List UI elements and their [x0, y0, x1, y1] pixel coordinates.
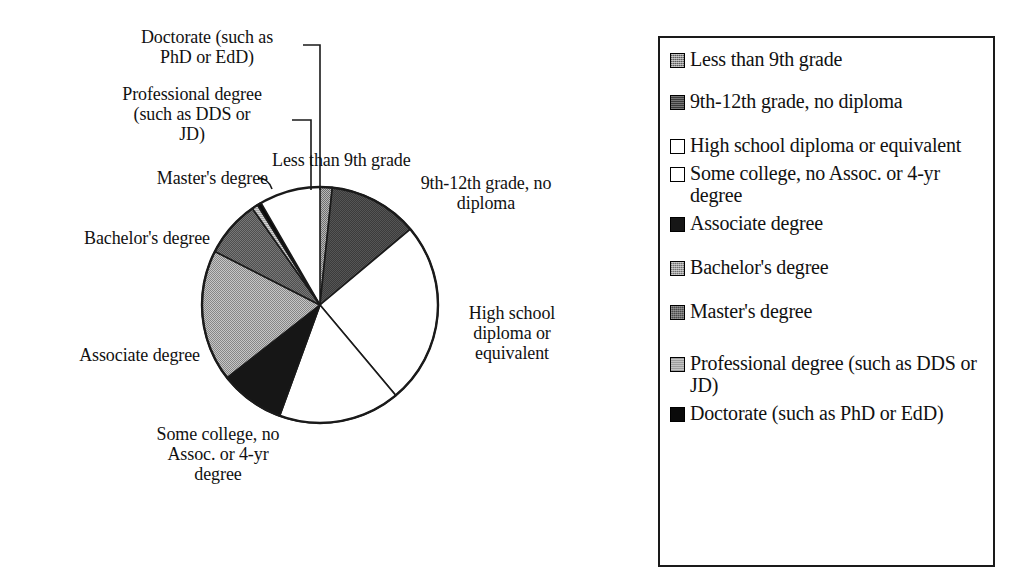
legend-label: High school diploma or equivalent: [690, 134, 961, 156]
legend-swatch-some-college: [670, 167, 685, 182]
callout-some-college: Some college, no Assoc. or 4-yr degree: [118, 424, 318, 484]
legend-item[interactable]: Professional degree (such as DDS or JD): [670, 352, 985, 396]
legend-swatch-high-school-diploma: [670, 139, 685, 154]
callout-masters-degree: Master's degree: [78, 168, 268, 188]
legend-swatch-less-than-9th-grade: [670, 53, 685, 68]
legend-swatch-professional-degree: [670, 357, 685, 372]
callout-associate-degree: Associate degree: [10, 345, 200, 365]
legend-swatch-associate-degree: [670, 217, 685, 232]
chart-page: Doctorate (such as PhD or EdD) Professio…: [0, 0, 1012, 586]
legend-item[interactable]: Bachelor's degree: [670, 256, 985, 278]
legend-item[interactable]: High school diploma or equivalent: [670, 134, 985, 156]
legend-item[interactable]: Master's degree: [670, 300, 985, 322]
callout-less-than-9th-grade: Less than 9th grade: [272, 150, 482, 170]
callout-bachelors-degree: Bachelor's degree: [10, 228, 210, 248]
legend-item[interactable]: Doctorate (such as PhD or EdD): [670, 402, 985, 424]
callout-doctorate: Doctorate (such as PhD or EdD): [92, 27, 322, 67]
legend-label: Master's degree: [690, 300, 812, 322]
legend-label: 9th-12th grade, no diploma: [690, 90, 903, 112]
legend-label: Associate degree: [690, 212, 823, 234]
legend-label: Bachelor's degree: [690, 256, 828, 278]
legend-item[interactable]: 9th-12th grade, no diploma: [670, 90, 985, 112]
legend-label: Professional degree (such as DDS or JD): [690, 352, 985, 396]
legend-box: Less than 9th grade 9th-12th grade, no d…: [658, 36, 995, 567]
legend-swatch-9th-12th-grade: [670, 95, 685, 110]
legend-swatch-bachelors-degree: [670, 261, 685, 276]
legend-label: Less than 9th grade: [690, 48, 842, 70]
pie-chart-area: Doctorate (such as PhD or EdD) Professio…: [0, 0, 640, 586]
legend-label: Some college, no Assoc. or 4-yr degree: [690, 162, 985, 206]
legend-swatch-masters-degree: [670, 305, 685, 320]
legend-item[interactable]: Less than 9th grade: [670, 48, 985, 70]
callout-professional-degree: Professional degree (such as DDS or JD): [80, 84, 304, 144]
legend-item[interactable]: Some college, no Assoc. or 4-yr degree: [670, 162, 985, 206]
legend-label: Doctorate (such as PhD or EdD): [690, 402, 943, 424]
legend-swatch-doctorate: [670, 407, 685, 422]
callout-9th-12th-grade: 9th-12th grade, no diploma: [388, 173, 584, 213]
callout-high-school-diploma: High school diploma or equivalent: [448, 303, 576, 363]
legend-item[interactable]: Associate degree: [670, 212, 985, 234]
